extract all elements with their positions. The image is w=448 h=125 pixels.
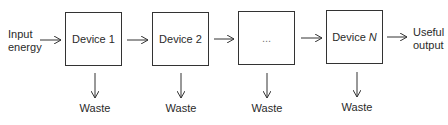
output-line2: output xyxy=(413,39,444,52)
useful-output-label: Useful output xyxy=(413,26,444,52)
device-n-prefix: Device xyxy=(332,31,369,43)
device-2-box: Device 2 xyxy=(152,12,209,66)
waste-label-3: Waste xyxy=(237,102,297,114)
input-line2: energy xyxy=(8,41,42,54)
device-1-label: Device 1 xyxy=(72,33,115,45)
waste-label-1: Waste xyxy=(65,102,125,114)
input-energy-label: Input energy xyxy=(8,28,42,54)
device-n-box: Device N xyxy=(326,10,383,64)
device-n-variable: N xyxy=(369,31,377,43)
device-n-label: Device N xyxy=(332,31,377,43)
output-line1: Useful xyxy=(413,26,444,39)
device-ellipsis-label: ... xyxy=(262,32,271,44)
device-2-label: Device 2 xyxy=(159,33,202,45)
input-line1: Input xyxy=(8,28,42,41)
device-ellipsis-box: ... xyxy=(238,11,295,65)
waste-label-4: Waste xyxy=(327,101,387,113)
device-1-box: Device 1 xyxy=(65,12,122,66)
waste-label-2: Waste xyxy=(151,102,211,114)
